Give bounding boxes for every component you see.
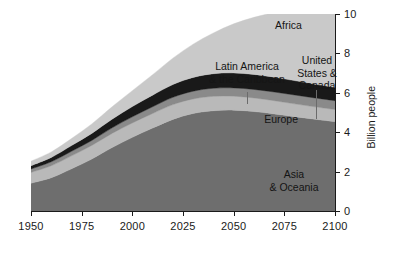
- x-tick-label: 2100: [322, 220, 347, 232]
- x-tick-label: 2000: [120, 220, 145, 232]
- x-tick-label: 2075: [272, 220, 297, 232]
- y-tick-mark: [335, 14, 340, 15]
- y-tick-label: 10: [344, 9, 357, 20]
- x-tick-label: 2050: [221, 220, 246, 232]
- series-label-united-states-canada: United States & Canada: [290, 54, 344, 92]
- series-label-usca-line3: Canada: [290, 79, 344, 92]
- x-tick-label: 2025: [170, 220, 195, 232]
- series-label-asia-line2: & Oceania: [252, 181, 336, 194]
- series-label-europe-text: Europe: [264, 113, 298, 125]
- y-tick-label: 6: [344, 87, 350, 98]
- series-label-latin-america-line1: Latin America: [188, 60, 306, 73]
- series-label-usca-line2: States &: [290, 67, 344, 80]
- y-tick-label: 4: [344, 127, 350, 138]
- x-tick-mark: [335, 211, 336, 216]
- y-tick-mark: [335, 132, 340, 133]
- x-tick-mark: [82, 211, 83, 216]
- x-tick-mark: [132, 211, 133, 216]
- series-label-latin-america-line2: & the Caribbean: [188, 73, 306, 86]
- y-tick-mark: [335, 93, 340, 94]
- x-tick-mark: [234, 211, 235, 216]
- leader-line-latin-america: [247, 92, 248, 104]
- population-stacked-area-chart: 0246810 Billion people 19501975200020252…: [0, 0, 394, 275]
- series-label-africa: Africa: [275, 19, 302, 32]
- leader-line-united-states-canada: [316, 90, 317, 119]
- series-label-usca-line1: United: [290, 54, 344, 67]
- series-label-latin-america: Latin America & the Caribbean: [188, 60, 306, 85]
- series-label-europe: Europe: [238, 113, 298, 126]
- x-tick-mark: [31, 211, 32, 216]
- series-label-asia-line1: Asia: [252, 168, 336, 181]
- x-tick-mark: [284, 211, 285, 216]
- y-tick-label: 0: [344, 206, 350, 217]
- y-tick-label: 8: [344, 48, 350, 59]
- x-tick-mark: [183, 211, 184, 216]
- y-axis-title: Billion people: [366, 86, 377, 148]
- series-label-asia-oceania: Asia & Oceania: [252, 168, 336, 193]
- x-tick-label: 1975: [69, 220, 94, 232]
- series-label-africa-text: Africa: [275, 19, 302, 31]
- y-tick-label: 2: [344, 166, 350, 177]
- x-tick-label: 1950: [18, 220, 43, 232]
